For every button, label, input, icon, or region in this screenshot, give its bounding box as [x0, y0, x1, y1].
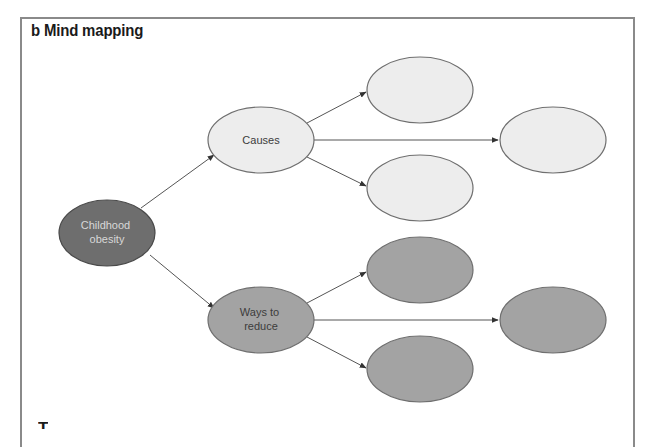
node-ways-to-reduce: Ways to reduce: [208, 287, 314, 353]
next-section-heading-cutoff: T: [38, 419, 48, 429]
node-causes-child-3: [367, 155, 473, 221]
node-label-line: reduce: [244, 320, 278, 332]
node-reduce-child-2: [500, 287, 606, 353]
node-label-line: Causes: [242, 134, 280, 146]
edge-causes-to-child-1: [307, 92, 366, 123]
node-reduce-child-1: [367, 237, 473, 303]
node-causes: Causes: [208, 107, 314, 173]
edge-root-to-causes: [141, 155, 214, 208]
edge-reduce-to-child-3: [307, 337, 366, 368]
edge-root-to-ways-to-reduce: [150, 255, 214, 308]
edge-causes-to-child-3: [307, 157, 366, 186]
node-label-line: Ways to: [240, 306, 279, 318]
node-childhood-obesity: Childhood obesity: [59, 200, 155, 266]
node-label-line: Childhood: [81, 219, 131, 231]
node-reduce-child-3: [367, 336, 473, 402]
node-label-line: obesity: [90, 233, 125, 245]
edges: [141, 92, 498, 368]
edge-reduce-to-child-1: [307, 272, 366, 303]
node-causes-child-2: [500, 107, 606, 173]
svg-text:Causes: Causes: [242, 134, 280, 146]
node-causes-child-1: [367, 57, 473, 123]
